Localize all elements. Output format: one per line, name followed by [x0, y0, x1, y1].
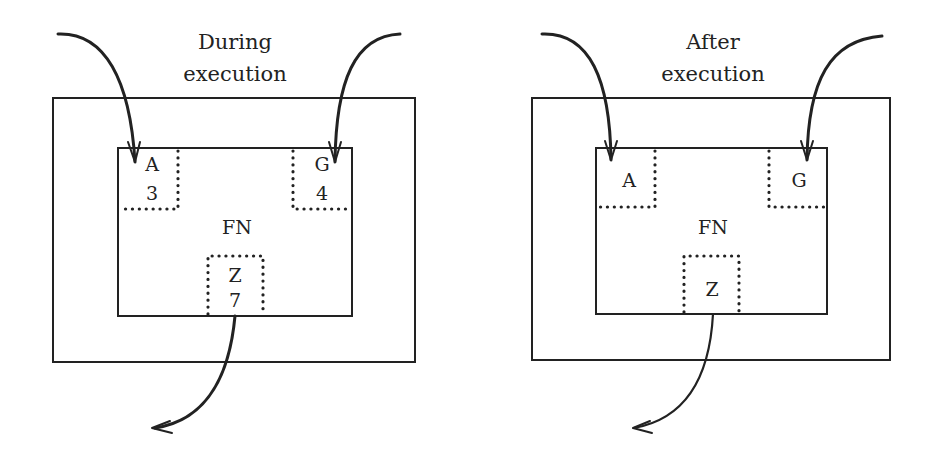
panel-after-execution: After execution A G FN Z [532, 30, 890, 433]
panel-title-line2: execution [661, 62, 764, 86]
slot-z-value: 7 [229, 289, 241, 311]
input-arrow-a [542, 34, 611, 160]
function-label: FN [222, 216, 252, 238]
diagram-canvas: During execution A 3 G 4 FN Z 7 After ex… [0, 0, 933, 457]
slot-g-name: G [791, 169, 806, 191]
slot-a-value: 3 [146, 182, 158, 204]
slot-z-name: Z [705, 278, 718, 300]
panel-during-execution: During execution A 3 G 4 FN Z 7 [53, 30, 415, 433]
function-label: FN [698, 216, 728, 238]
slot-a-name: A [621, 169, 636, 191]
slot-g-value: 4 [316, 182, 328, 204]
panel-title-line1: During [198, 30, 272, 54]
panel-title-line1: After [685, 30, 740, 54]
output-arrow-z [155, 316, 235, 428]
panel-title-line2: execution [183, 62, 286, 86]
output-arrow-z [634, 314, 713, 428]
slot-g-name: G [314, 153, 329, 175]
slot-a-name: A [144, 153, 159, 175]
slot-z-name: Z [228, 264, 241, 286]
